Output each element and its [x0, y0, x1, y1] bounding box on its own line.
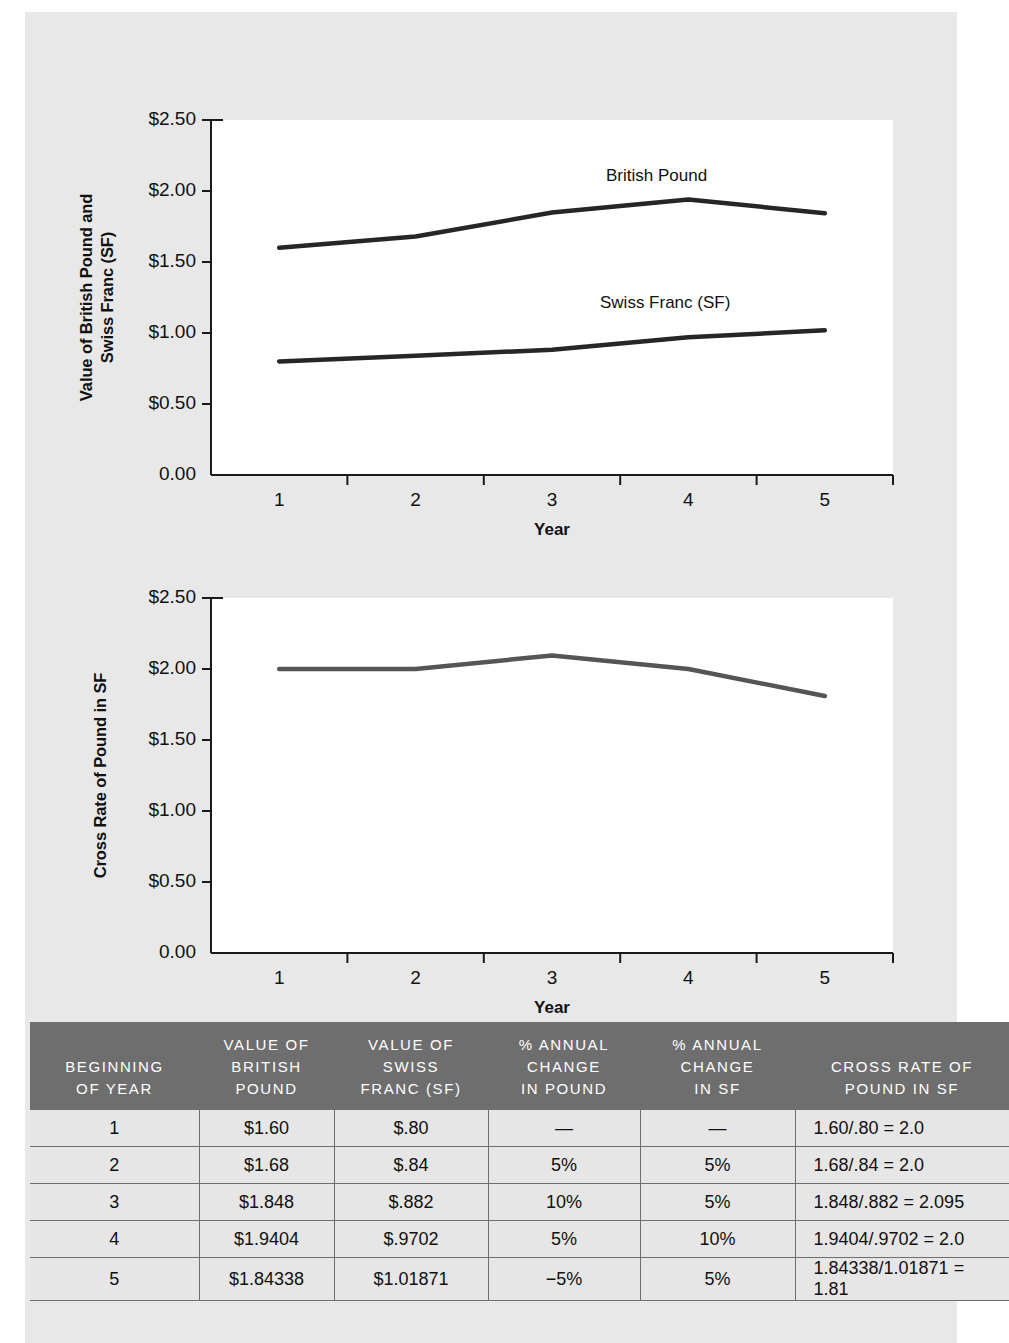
table-cell: $1.60 [199, 1110, 334, 1147]
chart1-y-axis-title-line2: Swiss Franc (SF) [97, 113, 117, 482]
table-column-header-line: VALUE OF [340, 1034, 482, 1056]
table-row: 4$1.9404$.97025%10%1.9404/.9702 = 2.0 [30, 1221, 1009, 1258]
table-cell: 10% [488, 1184, 640, 1221]
chart-pound-and-franc: Value of British Pound and Swiss Franc (… [0, 0, 957, 545]
table-column-header-line: VALUE OF [205, 1034, 328, 1056]
table-cell: 5% [640, 1184, 795, 1221]
table-cell: $.9702 [334, 1221, 488, 1258]
y-tick-label: $2.00 [148, 657, 196, 679]
table-column-header-line: BEGINNING [36, 1056, 193, 1078]
chart2-x-axis-title: Year [211, 998, 893, 1018]
table-column-header-line: POUND [205, 1078, 328, 1100]
y-tick-label: $1.50 [148, 728, 196, 750]
exchange-rate-table: BEGINNINGOF YEARVALUE OFBRITISHPOUNDVALU… [30, 1022, 1009, 1301]
table-cell: −5% [488, 1258, 640, 1301]
y-tick-label: $2.00 [148, 179, 196, 201]
table-column-header: VALUE OFSWISSFRANC (SF) [334, 1022, 488, 1110]
y-tick-label: $1.00 [148, 799, 196, 821]
table-row: 5$1.84338$1.01871−5%5%1.84338/1.01871 = … [30, 1258, 1009, 1301]
table-cell: 5% [488, 1221, 640, 1258]
table-cell: $1.9404 [199, 1221, 334, 1258]
table-cell: 3 [30, 1184, 199, 1221]
x-tick-label: 1 [254, 967, 304, 989]
table-cell: 1.9404/.9702 = 2.0 [795, 1221, 1009, 1258]
table-cell: 1.68/.84 = 2.0 [795, 1147, 1009, 1184]
y-tick-label: $1.00 [148, 321, 196, 343]
y-tick-label: $2.50 [148, 586, 196, 608]
table-cell: $1.01871 [334, 1258, 488, 1301]
table-column-header-line: SWISS [340, 1056, 482, 1078]
x-tick-label: 5 [800, 967, 850, 989]
chart2-plot-area [0, 478, 957, 1023]
table-column-header: BEGINNINGOF YEAR [30, 1022, 199, 1110]
table-cell: 5% [488, 1147, 640, 1184]
table-cell: $.80 [334, 1110, 488, 1147]
table-cell: 1 [30, 1110, 199, 1147]
table-cell: 1.848/.882 = 2.095 [795, 1184, 1009, 1221]
table-column-header-line: % ANNUAL [646, 1034, 789, 1056]
table-cell: 2 [30, 1147, 199, 1184]
table-cell: 5% [640, 1147, 795, 1184]
table-column-header: % ANNUALCHANGEIN POUND [488, 1022, 640, 1110]
x-tick-label: 3 [527, 967, 577, 989]
table-cell: $1.848 [199, 1184, 334, 1221]
table-cell: — [488, 1110, 640, 1147]
chart1-plot-area [0, 0, 957, 545]
table-column-header: % ANNUALCHANGEIN SF [640, 1022, 795, 1110]
chart1-series-label-swiss-franc: Swiss Franc (SF) [600, 293, 730, 313]
table-cell: 5% [640, 1258, 795, 1301]
y-tick-label: $2.50 [148, 108, 196, 130]
table-row: 2$1.68$.845%5%1.68/.84 = 2.0 [30, 1147, 1009, 1184]
table-column-header-line: POUND IN SF [801, 1078, 1003, 1100]
table-column-header-line: IN SF [646, 1078, 789, 1100]
y-tick-label: $0.50 [148, 870, 196, 892]
chart2-y-axis-title: Cross Rate of Pound in SF [90, 591, 110, 960]
table-cell: — [640, 1110, 795, 1147]
table-body: 1$1.60$.80——1.60/.80 = 2.02$1.68$.845%5%… [30, 1110, 1009, 1301]
table-header-row: BEGINNINGOF YEARVALUE OFBRITISHPOUNDVALU… [30, 1022, 1009, 1110]
table-column-header-line: CHANGE [494, 1056, 634, 1078]
chart1-series-label-british-pound: British Pound [606, 166, 707, 186]
table-column-header-line: OF YEAR [36, 1078, 193, 1100]
chart-cross-rate: Cross Rate of Pound in SF Year $2.50$2.0… [0, 478, 957, 1023]
table-column-header-line: FRANC (SF) [340, 1078, 482, 1100]
table-column-header-line: % ANNUAL [494, 1034, 634, 1056]
chart1-y-axis-title-line1: Value of British Pound and [76, 113, 96, 482]
table-column-header-line: CHANGE [646, 1056, 789, 1078]
table-column-header-line: CROSS RATE OF [801, 1056, 1003, 1078]
table-cell: 5 [30, 1258, 199, 1301]
table-row: 1$1.60$.80——1.60/.80 = 2.0 [30, 1110, 1009, 1147]
table-cell: $.84 [334, 1147, 488, 1184]
table-cell: 10% [640, 1221, 795, 1258]
table-cell: $1.84338 [199, 1258, 334, 1301]
table-column-header: CROSS RATE OFPOUND IN SF [795, 1022, 1009, 1110]
table-cell: $1.68 [199, 1147, 334, 1184]
table-cell: 1.84338/1.01871 = 1.81 [795, 1258, 1009, 1301]
table-cell: 1.60/.80 = 2.0 [795, 1110, 1009, 1147]
table-column-header: VALUE OFBRITISHPOUND [199, 1022, 334, 1110]
table-row: 3$1.848$.88210%5%1.848/.882 = 2.095 [30, 1184, 1009, 1221]
table-header: BEGINNINGOF YEARVALUE OFBRITISHPOUNDVALU… [30, 1022, 1009, 1110]
table-cell: 4 [30, 1221, 199, 1258]
table-column-header-line: BRITISH [205, 1056, 328, 1078]
y-tick-label: 0.00 [159, 941, 196, 963]
x-tick-label: 2 [391, 967, 441, 989]
y-tick-label: $1.50 [148, 250, 196, 272]
x-tick-label: 4 [663, 967, 713, 989]
table-cell: $.882 [334, 1184, 488, 1221]
y-tick-label: $0.50 [148, 392, 196, 414]
table-column-header-line: IN POUND [494, 1078, 634, 1100]
